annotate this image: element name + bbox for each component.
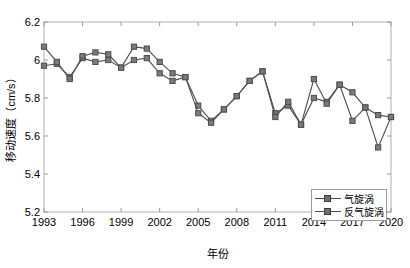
y-tick-label: 5.4 xyxy=(8,168,40,180)
data-point-marker xyxy=(286,99,291,104)
y-axis-label: 移动速度（cm/s） xyxy=(2,72,18,161)
data-point-marker xyxy=(298,122,303,127)
data-point-marker xyxy=(311,95,316,100)
data-point-marker xyxy=(376,145,381,150)
data-point-marker xyxy=(119,65,124,70)
data-point-marker xyxy=(54,59,59,64)
data-point-marker xyxy=(144,56,149,61)
data-point-marker xyxy=(131,57,136,62)
x-tick-label: 1996 xyxy=(70,216,94,228)
data-point-marker xyxy=(106,57,111,62)
data-point-marker xyxy=(196,111,201,116)
data-point-marker xyxy=(350,90,355,95)
data-point-marker xyxy=(376,113,381,118)
data-point-marker xyxy=(41,44,46,49)
data-point-marker xyxy=(93,59,98,64)
data-point-marker xyxy=(311,76,316,81)
data-point-marker xyxy=(93,50,98,55)
legend-label: 反气旋涡 xyxy=(344,204,384,219)
data-point-marker xyxy=(221,107,226,112)
x-tick-label: 1999 xyxy=(109,216,133,228)
legend-marker-icon xyxy=(315,206,341,217)
data-point-marker xyxy=(144,46,149,51)
x-tick-label: 2005 xyxy=(186,216,210,228)
x-tick-label: 1993 xyxy=(32,216,56,228)
legend-marker-icon xyxy=(315,193,341,204)
legend-item-anticyclonic: 反气旋涡 xyxy=(315,205,383,218)
y-tick-label: 6 xyxy=(8,54,40,66)
chart-figure: 5.25.45.65.866.2 19931996199920022005200… xyxy=(0,0,410,268)
data-point-marker xyxy=(388,114,393,119)
data-point-marker xyxy=(170,71,175,76)
x-tick-label: 2002 xyxy=(147,216,171,228)
data-point-marker xyxy=(67,76,72,81)
x-tick-label: 2008 xyxy=(225,216,249,228)
data-point-marker xyxy=(80,54,85,59)
data-point-marker xyxy=(324,101,329,106)
data-point-marker xyxy=(131,44,136,49)
data-point-marker xyxy=(260,69,265,74)
data-point-marker xyxy=(350,118,355,123)
data-point-marker xyxy=(41,63,46,68)
data-point-marker xyxy=(247,78,252,83)
data-point-marker xyxy=(183,75,188,80)
x-tick-label: 2011 xyxy=(264,216,288,228)
x-axis-label: 年份 xyxy=(207,245,229,261)
data-series xyxy=(41,44,393,150)
data-point-marker xyxy=(170,78,175,83)
data-point-marker xyxy=(273,114,278,119)
data-point-marker xyxy=(363,105,368,110)
series-line xyxy=(44,58,391,147)
chart-legend: 气旋涡 反气旋涡 xyxy=(311,189,387,221)
data-point-marker xyxy=(234,94,239,99)
data-point-marker xyxy=(157,59,162,64)
y-tick-label: 6.2 xyxy=(8,16,40,28)
data-point-marker xyxy=(157,71,162,76)
data-point-marker xyxy=(337,82,342,87)
data-point-marker xyxy=(106,52,111,57)
data-point-marker xyxy=(208,120,213,125)
